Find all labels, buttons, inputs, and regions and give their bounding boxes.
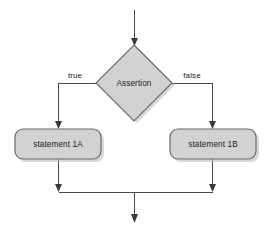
statement-1b-merge-arrow-head-icon <box>209 184 216 192</box>
statement-1a-merge-arrow-head-icon <box>55 184 62 192</box>
decision-true-arrow-head-icon <box>55 121 62 129</box>
decision-false-arrow-head-icon <box>209 121 216 129</box>
entry-arrow <box>131 10 138 46</box>
statement-1b[interactable]: statement 1B <box>170 129 259 162</box>
flowchart-canvas: Assertion true false statement 1A statem… <box>0 0 268 238</box>
assertion-decision-label: Assertion <box>116 79 151 88</box>
exit-arrow <box>131 193 138 224</box>
statement-1b-label: statement 1B <box>188 140 238 149</box>
statement-1a-to-merge <box>55 159 62 192</box>
false-edge-label: false <box>183 71 201 80</box>
flowchart-svg: Assertion true false statement 1A statem… <box>0 0 268 238</box>
statement-1a[interactable]: statement 1A <box>15 129 104 162</box>
decision-false-edge <box>172 84 216 130</box>
decision-false-edge-line <box>172 84 213 125</box>
assertion-decision[interactable]: Assertion <box>96 45 175 123</box>
decision-true-edge <box>55 84 96 130</box>
exit-arrow-head-icon <box>131 214 138 223</box>
statement-1a-label: statement 1A <box>33 140 83 149</box>
statement-1b-to-merge <box>209 159 216 192</box>
true-edge-label: true <box>68 71 83 80</box>
decision-true-edge-line <box>59 84 97 125</box>
